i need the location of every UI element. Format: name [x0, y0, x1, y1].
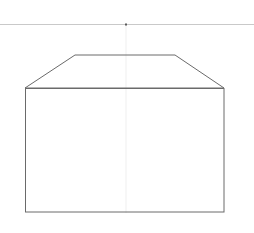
perspective-drawing: One-point perspective construction sketc… — [0, 0, 254, 233]
roof-trapezoid — [25, 55, 224, 88]
vanishing-point-marker — [125, 24, 127, 26]
drawing-canvas: One-point perspective construction sketc… — [0, 0, 254, 233]
front-wall-rectangle — [26, 89, 225, 213]
